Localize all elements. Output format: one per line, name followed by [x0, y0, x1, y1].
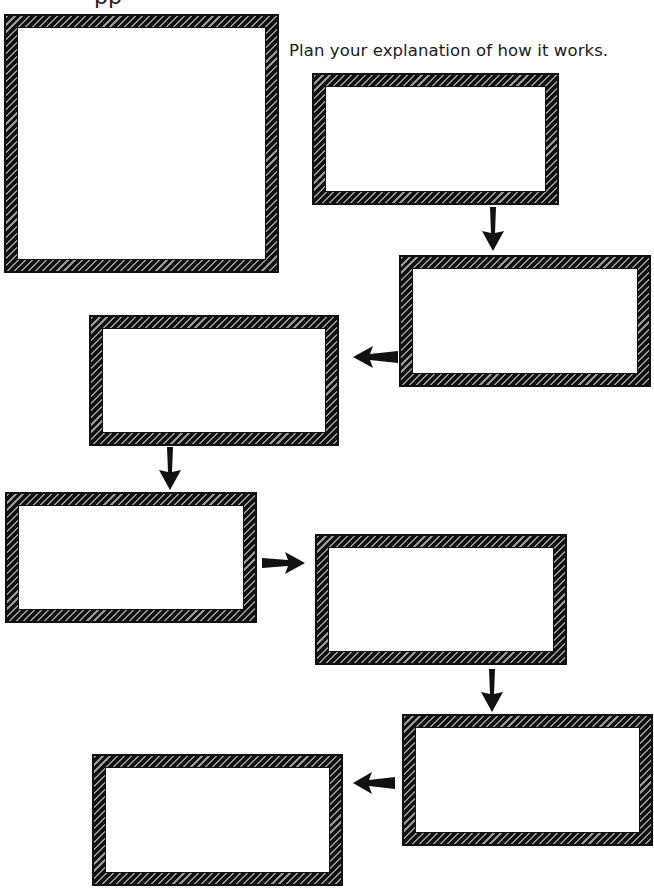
arrow-down-icon [480, 207, 506, 252]
instruction-text: Plan your explanation of how it works. [289, 41, 608, 60]
step-box-3[interactable] [90, 316, 338, 445]
clipped-heading: pp [0, 0, 654, 14]
arrow-down-icon [157, 447, 183, 491]
step-box-2[interactable] [400, 256, 650, 386]
step-box-6[interactable] [403, 715, 652, 845]
clipped-heading-text: pp [94, 0, 122, 9]
step-box-7[interactable] [93, 755, 342, 885]
arrow-left-icon [353, 771, 396, 795]
arrow-left-icon [353, 345, 399, 369]
step-box-1[interactable] [313, 74, 558, 204]
step-box-5[interactable] [316, 535, 566, 664]
step-box-4[interactable] [6, 493, 256, 622]
arrow-down-icon [479, 669, 505, 713]
picture-box[interactable] [5, 15, 278, 272]
arrow-right-icon [262, 551, 306, 575]
